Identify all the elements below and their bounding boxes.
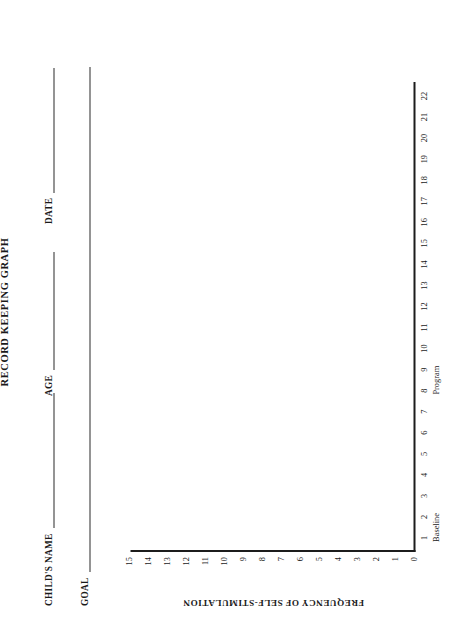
x-axis-tick: 17 bbox=[420, 197, 428, 205]
phase-label: Baseline bbox=[432, 513, 440, 542]
y-axis-tick: 2 bbox=[373, 557, 381, 561]
field-rule-goal[interactable] bbox=[88, 67, 90, 572]
y-axis-tick: 12 bbox=[183, 557, 191, 565]
y-axis-line bbox=[130, 550, 415, 552]
x-axis-tick: 6 bbox=[420, 431, 428, 435]
x-axis-tick: 5 bbox=[420, 452, 428, 456]
y-axis-tick: 5 bbox=[316, 557, 324, 561]
field-childs-name[interactable]: CHILD'S NAME bbox=[44, 393, 54, 606]
y-axis-tick: 1 bbox=[392, 557, 400, 561]
y-axis-tick: 14 bbox=[145, 557, 153, 565]
field-rule-childs-name[interactable] bbox=[52, 393, 54, 528]
phase-label: Program bbox=[432, 366, 440, 395]
field-label-age: AGE bbox=[44, 375, 54, 396]
field-goal[interactable]: GOAL bbox=[80, 67, 90, 606]
x-axis-tick: 13 bbox=[420, 281, 428, 289]
y-axis-tick: 9 bbox=[240, 557, 248, 561]
x-axis-tick: 7 bbox=[420, 410, 428, 414]
y-axis-tick: 8 bbox=[259, 557, 267, 561]
x-axis-tick: 8 bbox=[420, 389, 428, 393]
field-label-date: DATE bbox=[44, 198, 54, 224]
y-axis-tick: 7 bbox=[278, 557, 286, 561]
x-axis-tick: 14 bbox=[420, 260, 428, 268]
x-axis-tick: 20 bbox=[420, 134, 428, 142]
page-title: RECORD KEEPING GRAPH bbox=[0, 0, 9, 624]
x-axis-tick: 11 bbox=[420, 323, 428, 331]
field-date[interactable]: DATE bbox=[44, 68, 54, 224]
x-axis-tick: 16 bbox=[420, 218, 428, 226]
y-axis-tick: 0 bbox=[411, 557, 419, 561]
x-axis-line bbox=[413, 82, 415, 552]
x-axis-tick: 9 bbox=[420, 368, 428, 372]
x-axis-tick: 22 bbox=[420, 92, 428, 100]
y-axis-tick: 15 bbox=[126, 557, 134, 565]
field-label-goal: GOAL bbox=[80, 577, 90, 606]
x-axis-tick: 1 bbox=[420, 536, 428, 540]
y-axis-label-text: FREQUENCY OF SELF-STIMULATION bbox=[182, 598, 363, 608]
record-keeping-graph-sheet: RECORD KEEPING GRAPH CHILD'S NAME AGE DA… bbox=[0, 0, 471, 624]
y-axis-tick: 11 bbox=[202, 557, 210, 565]
x-axis-tick: 18 bbox=[420, 176, 428, 184]
x-axis-tick: 2 bbox=[420, 515, 428, 519]
field-age[interactable]: AGE bbox=[44, 252, 54, 396]
chart-plot-area: 0123456789101112131415 12345678910111213… bbox=[130, 82, 415, 552]
x-axis-tick: 19 bbox=[420, 155, 428, 163]
field-label-childs-name: CHILD'S NAME bbox=[44, 533, 54, 606]
x-axis-tick: 4 bbox=[420, 473, 428, 477]
y-axis-tick: 4 bbox=[335, 557, 343, 561]
field-rule-date[interactable] bbox=[52, 68, 54, 193]
y-axis-tick: 3 bbox=[354, 557, 362, 561]
x-axis-tick: 21 bbox=[420, 113, 428, 121]
y-axis-tick: 13 bbox=[164, 557, 172, 565]
x-axis-tick: 12 bbox=[420, 302, 428, 310]
y-axis-label: FREQUENCY OF SELF-STIMULATION bbox=[130, 596, 415, 610]
y-axis-tick: 10 bbox=[221, 557, 229, 565]
x-axis-tick: 15 bbox=[420, 239, 428, 247]
x-axis-tick: 10 bbox=[420, 344, 428, 352]
y-axis-tick: 6 bbox=[297, 557, 305, 561]
field-rule-age[interactable] bbox=[52, 252, 54, 370]
x-axis-tick: 3 bbox=[420, 494, 428, 498]
